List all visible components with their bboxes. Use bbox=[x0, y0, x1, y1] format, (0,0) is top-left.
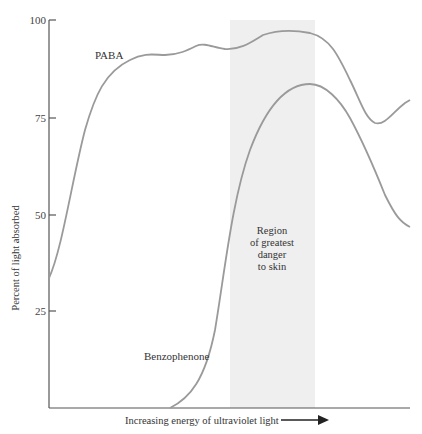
x-axis-title: Increasing energy of ultraviolet light bbox=[125, 415, 279, 426]
right-arrow-icon bbox=[281, 415, 329, 425]
paba-label: PABA bbox=[95, 49, 123, 61]
y-tick-label-50: 50 bbox=[35, 209, 47, 221]
y-tick-label-100: 100 bbox=[30, 14, 47, 26]
uv-absorption-chart: 100 75 50 25 Percent of light absorbed P… bbox=[0, 0, 422, 434]
y-tick-label-25: 25 bbox=[35, 305, 47, 317]
region-label-line3: danger bbox=[258, 249, 287, 260]
y-axis-title: Percent of light absorbed bbox=[10, 205, 21, 311]
y-tick-label-75: 75 bbox=[35, 112, 47, 124]
region-label-line2: of greatest bbox=[250, 237, 294, 248]
region-label-line4: to skin bbox=[258, 261, 287, 272]
region-label-line1: Region bbox=[257, 225, 288, 236]
danger-region-band bbox=[230, 20, 315, 408]
benzophenone-label: Benzophenone bbox=[144, 350, 209, 362]
